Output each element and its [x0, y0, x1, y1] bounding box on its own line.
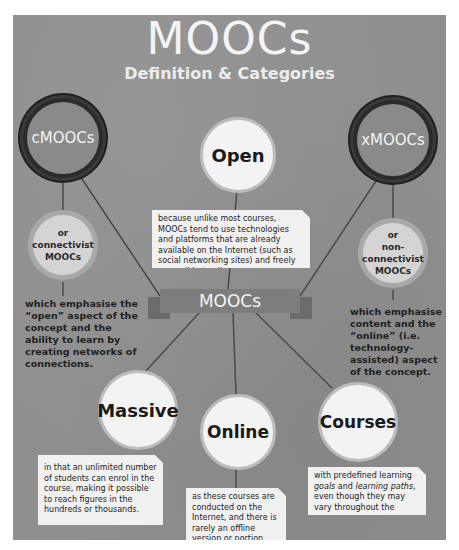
- alias-line: non-: [382, 241, 405, 253]
- open-description: because unlike most courses, MOOCs tend …: [158, 214, 295, 276]
- online-description-box: as these courses are conducted on the In…: [186, 488, 286, 540]
- xmoocs-label: xMOOCs: [361, 131, 425, 149]
- center-banner-label: MOOCs: [199, 291, 261, 311]
- courses-desc-paths: learning paths: [355, 482, 413, 491]
- connectivist-circle: or connectivist MOOCs: [28, 210, 98, 280]
- non-connectivist-circle: or non- connectivist MOOCs: [358, 218, 428, 288]
- open-description-box: because unlike most courses, MOOCs tend …: [152, 210, 310, 268]
- courses-desc-goals: goals: [314, 482, 335, 491]
- cmoocs-label: cMOOCs: [31, 129, 94, 147]
- massive-description: in that an unlimited number of students …: [44, 463, 157, 514]
- xmoocs-description: which emphasise content and the “online”…: [350, 306, 444, 378]
- center-banner: MOOCs: [160, 289, 300, 313]
- online-circle: Online: [200, 394, 276, 470]
- page-title: MOOCs: [0, 14, 459, 64]
- page-subtitle: Definition & Categories: [0, 64, 459, 83]
- courses-term: Courses: [320, 412, 396, 432]
- alias-line: MOOCs: [375, 265, 411, 277]
- cmoocs-description: which emphasise the “open” aspect of the…: [25, 298, 143, 370]
- alias-line: or: [388, 229, 399, 241]
- massive-description-box: in that an unlimited number of students …: [38, 455, 163, 525]
- courses-circle: Courses: [318, 382, 398, 462]
- open-circle: Open: [200, 117, 276, 193]
- alias-line: MOOCs: [45, 251, 81, 263]
- courses-desc-text: with predefined learning: [314, 471, 412, 480]
- alias-line: connectivist: [32, 239, 94, 251]
- alias-line: connectivist: [362, 253, 424, 265]
- massive-circle: Massive: [98, 370, 178, 450]
- online-description: as these courses are conducted on the In…: [192, 492, 277, 543]
- courses-desc-text: and: [335, 482, 355, 491]
- open-term: Open: [211, 145, 264, 166]
- massive-term: Massive: [97, 400, 179, 421]
- cmoocs-badge: cMOOCs: [23, 98, 103, 178]
- xmoocs-badge: xMOOCs: [353, 100, 433, 180]
- alias-line: or: [58, 227, 69, 239]
- courses-description-box: with predefined learning goals and learn…: [308, 467, 426, 515]
- online-term: Online: [207, 422, 269, 442]
